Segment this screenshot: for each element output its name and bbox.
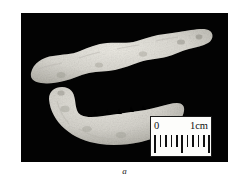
scale-bar-labels: 0 1cm bbox=[151, 117, 211, 134]
scale-bar: 0 1cm bbox=[150, 116, 212, 157]
specimen-photograph: 0 1cm bbox=[21, 13, 228, 162]
figure-caption-label: a bbox=[0, 166, 249, 177]
figure-panel: 0 1cm a bbox=[0, 0, 249, 185]
scale-bar-ticks bbox=[154, 134, 210, 155]
scale-bar-zero-label: 0 bbox=[154, 120, 159, 131]
scale-bar-max-label: 1cm bbox=[190, 120, 208, 131]
